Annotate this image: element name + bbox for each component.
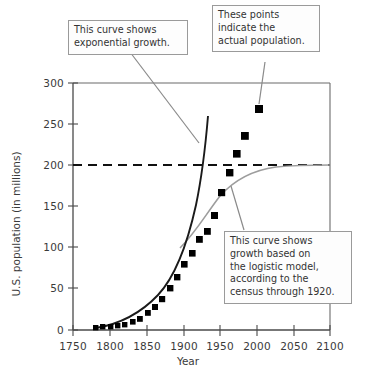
exponential-growth-curve [96, 116, 208, 328]
x-tick-label-1750: 1750 [59, 340, 87, 352]
y-axis-title: U.S. population (in millions) [10, 134, 22, 314]
y-tick-label-250: 250 [34, 118, 64, 130]
leader-line-exponential [130, 52, 199, 143]
annotation-logistic-model: This curve shows growth based on the log… [224, 231, 352, 304]
x-tick-label-1900: 1900 [170, 340, 198, 352]
y-tick-label-100: 100 [34, 241, 64, 253]
y-tick-label-50: 50 [34, 282, 64, 294]
leader-line-logistic [231, 186, 244, 230]
x-tick-label-1950: 1950 [206, 340, 234, 352]
x-tick-label-2100: 2100 [316, 340, 344, 352]
y-tick-label-200: 200 [34, 159, 64, 171]
annotation-actual-population: These points indicate the actual populat… [212, 5, 320, 52]
y-tick-label-150: 150 [34, 200, 64, 212]
population-growth-chart: 300 250 200 150 100 50 0 1750 1800 1850 … [0, 0, 376, 390]
x-axis-title: Year [0, 355, 376, 367]
y-tick-label-300: 300 [34, 77, 64, 89]
x-tick-label-1850: 1850 [133, 340, 161, 352]
x-tick-label-1800: 1800 [96, 340, 124, 352]
annotation-exponential-growth: This curve shows exponential growth. [68, 20, 188, 55]
x-tick-label-2000: 2000 [243, 340, 271, 352]
x-tick-label-2050: 2050 [280, 340, 308, 352]
y-tick-label-0: 0 [34, 324, 64, 336]
callout-leader-lines [130, 52, 265, 230]
